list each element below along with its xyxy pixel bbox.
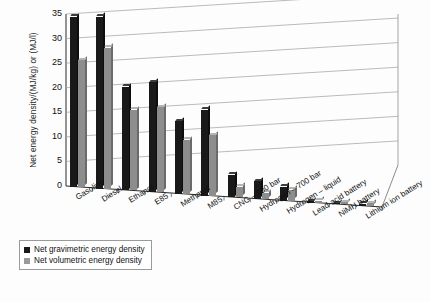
bar-top [78,58,87,60]
bar-face [104,48,111,189]
bar [157,107,164,192]
energy-density-bar-chart: Net energy density/(MJ/kg) or (MJ/l) 051… [0,0,430,302]
bar-face [209,135,216,195]
bar-top [149,80,158,82]
bar-side [137,106,139,189]
bar-top [236,184,245,186]
bar-group [254,27,280,199]
bar [175,121,182,194]
bar-group [228,25,254,197]
y-tick-label: 15 [40,106,62,116]
bar [130,110,137,191]
bar-side [216,131,218,193]
y-tick-label: 0 [40,180,62,190]
bar-group [96,17,122,189]
y-tick-label: 30 [40,33,62,43]
chart-legend: Net gravimetric energy density Net volum… [19,240,152,270]
bar [149,82,156,192]
bar-face [157,107,164,192]
bar-face [130,110,137,191]
y-tick-label: 5 [40,155,62,165]
legend-label: Net gravimetric energy density [34,245,145,254]
bar-side [111,43,113,186]
bar-face [78,60,85,187]
y-axis-title: Net energy density/(MJ/kg) or (MJ/l) [28,5,38,195]
bar-top [175,119,184,121]
bar-face [236,187,243,198]
bar-face [96,17,103,189]
bar-group [201,24,227,196]
bar [122,87,129,191]
y-tick-label: 25 [40,57,62,67]
legend-swatch-icon [24,247,30,253]
bar [209,135,216,195]
plot-area: 05101520253035 GasolineDieselEthanolE85M… [66,14,414,186]
bar-group [70,15,96,187]
bar-face [175,121,182,194]
legend-item-volumetric: Net volumetric energy density [24,255,145,266]
bar-face [183,140,190,194]
bar [228,175,235,198]
legend-item-gravimetric: Net gravimetric energy density [24,244,145,255]
bar-top [157,105,166,107]
bar [315,201,322,203]
bar-series-layer [66,14,414,186]
bar-side [85,56,87,185]
y-tick-label: 35 [40,8,62,18]
bar-side [164,103,166,190]
bar [104,48,111,189]
legend-swatch-icon [24,258,30,264]
legend-label: Net volumetric energy density [34,256,142,265]
bar-side [190,136,192,192]
bar-face [70,17,77,187]
bar [78,60,85,187]
y-tick-label: 20 [40,82,62,92]
bar-group [149,20,175,192]
bar-group [280,29,306,201]
bar-group [175,22,201,194]
bar-face [149,82,156,192]
bar-face [315,201,322,203]
y-tick-label: 10 [40,131,62,141]
bar [236,187,243,198]
bar-group [122,18,148,190]
bar [96,17,103,189]
bar-face [228,175,235,198]
bar-face [122,87,129,191]
bar [183,140,190,194]
bar [70,17,77,187]
